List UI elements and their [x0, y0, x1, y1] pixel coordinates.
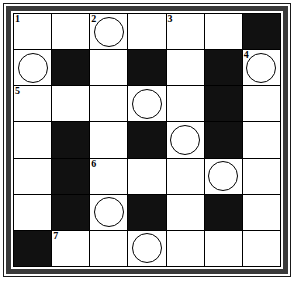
grid-cell-block [52, 50, 89, 85]
grid-cell-block [52, 159, 89, 194]
grid-cell-open[interactable] [167, 231, 204, 266]
grid-cell-open[interactable] [90, 122, 127, 157]
grid-cell-block [14, 231, 51, 266]
crossword-grid[interactable]: 1234567 [14, 14, 280, 266]
clue-number: 6 [91, 158, 96, 169]
grid-cell-block [205, 122, 242, 157]
circle-marker-icon [208, 161, 238, 191]
grid-cell-open[interactable] [167, 122, 204, 157]
grid-cell-open[interactable] [243, 122, 280, 157]
grid-cell-open[interactable] [90, 86, 127, 121]
circle-marker-icon [170, 125, 200, 155]
grid-cell-open[interactable] [167, 195, 204, 230]
grid-cell-open[interactable] [205, 14, 242, 49]
grid-cell-open[interactable] [243, 86, 280, 121]
grid-cell-open[interactable] [128, 231, 165, 266]
grid-cell-open[interactable] [128, 86, 165, 121]
grid-cell-open[interactable] [128, 14, 165, 49]
grid-cell-open[interactable] [14, 50, 51, 85]
grid-cell-open[interactable] [90, 231, 127, 266]
grid-cell-open[interactable] [14, 195, 51, 230]
circle-marker-icon [18, 53, 48, 83]
grid-cell-block [205, 86, 242, 121]
grid-cell-open[interactable] [167, 50, 204, 85]
grid-cell-block [205, 50, 242, 85]
grid-cell-open[interactable]: 5 [14, 86, 51, 121]
grid-cell-open[interactable] [14, 159, 51, 194]
grid-cell-open[interactable] [52, 86, 89, 121]
grid-cell-block [52, 122, 89, 157]
grid-cell-block [243, 14, 280, 49]
grid-cell-open[interactable]: 3 [167, 14, 204, 49]
clue-number: 5 [15, 85, 20, 96]
grid-cell-block [128, 195, 165, 230]
grid-cell-open[interactable] [243, 195, 280, 230]
grid-cell-block [128, 50, 165, 85]
crossword-grid-border: 1234567 [13, 13, 281, 267]
grid-cell-block [205, 195, 242, 230]
grid-cell-open[interactable] [167, 86, 204, 121]
grid-cell-open[interactable]: 2 [90, 14, 127, 49]
grid-cell-block [52, 195, 89, 230]
grid-cell-open[interactable] [52, 14, 89, 49]
clue-number: 4 [244, 49, 249, 60]
grid-cell-open[interactable]: 1 [14, 14, 51, 49]
grid-cell-open[interactable] [90, 195, 127, 230]
circle-marker-icon [246, 53, 276, 83]
clue-number: 2 [91, 13, 96, 24]
circle-marker-icon [132, 89, 162, 119]
crossword-puzzle: 1234567 [0, 0, 297, 283]
grid-cell-open[interactable]: 6 [90, 159, 127, 194]
grid-cell-open[interactable] [243, 231, 280, 266]
grid-cell-open[interactable] [243, 159, 280, 194]
clue-number: 7 [53, 230, 58, 241]
circle-marker-icon [132, 233, 162, 263]
clue-number: 3 [168, 13, 173, 24]
grid-cell-open[interactable] [205, 159, 242, 194]
grid-cell-block [128, 122, 165, 157]
grid-cell-open[interactable] [90, 50, 127, 85]
grid-cell-open[interactable] [14, 122, 51, 157]
clue-number: 1 [15, 13, 20, 24]
grid-cell-open[interactable]: 4 [243, 50, 280, 85]
circle-marker-icon [94, 197, 124, 227]
grid-cell-open[interactable] [205, 231, 242, 266]
circle-marker-icon [94, 17, 124, 47]
grid-cell-open[interactable] [167, 159, 204, 194]
grid-cell-open[interactable] [128, 159, 165, 194]
grid-cell-open[interactable]: 7 [52, 231, 89, 266]
